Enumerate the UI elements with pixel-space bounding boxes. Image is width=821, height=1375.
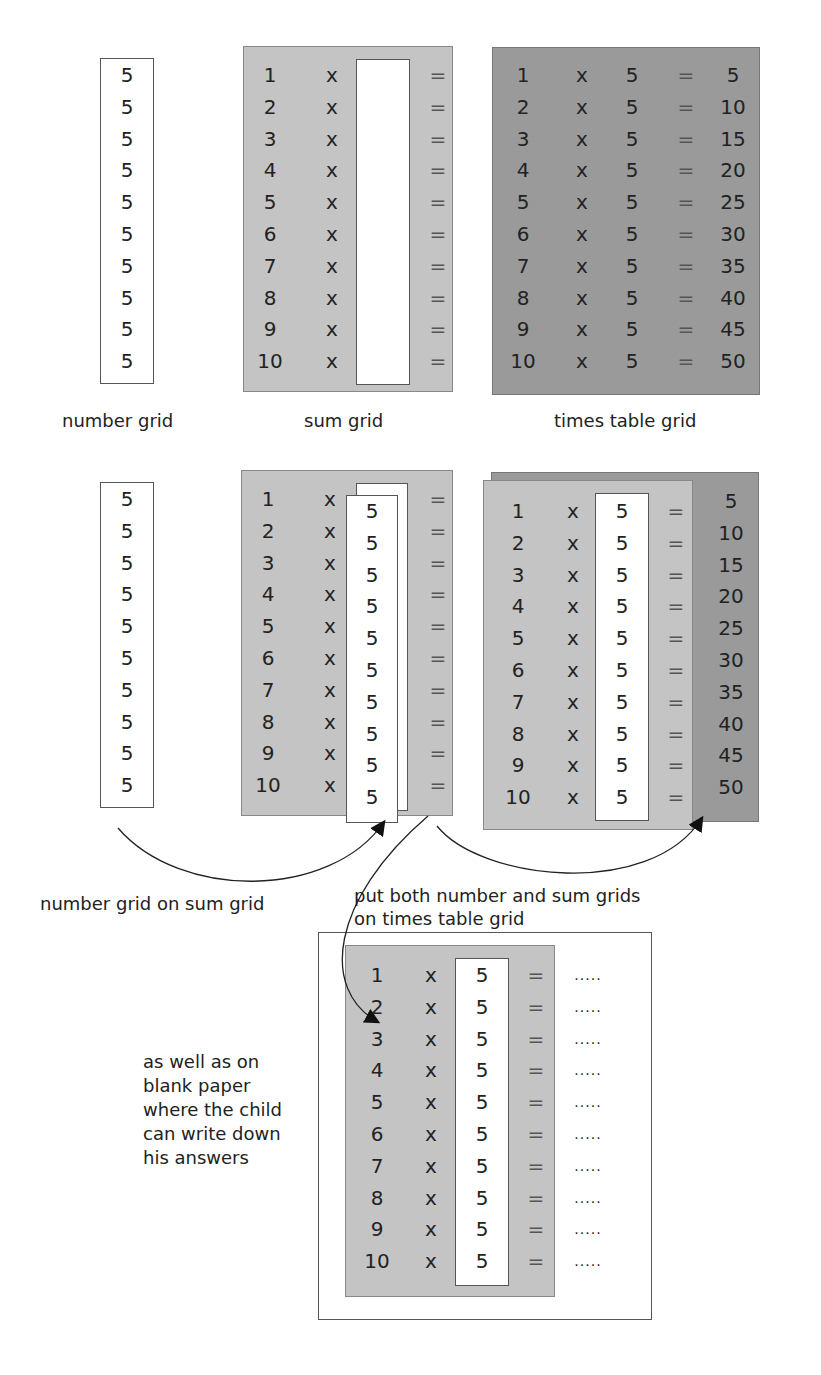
blank-answer: ..... (568, 1186, 608, 1210)
tt-multiplier: 5 (612, 95, 652, 119)
tt-multiplier: 5 (612, 158, 652, 182)
times-sign: x (312, 127, 352, 151)
number-grid-cell: 5 (107, 190, 147, 214)
tt-product: 45 (713, 317, 753, 341)
times-sign: x (312, 254, 352, 278)
arrow-sum-to-times (437, 818, 702, 873)
tt-row-n: 7 (503, 254, 543, 278)
tt-product: 5 (713, 63, 753, 87)
tt-row-n: 1 (503, 63, 543, 87)
times-sign: x (562, 317, 602, 341)
sum-row-n: 6 (250, 222, 290, 246)
number-grid-cell: 5 (107, 127, 147, 151)
number-grid-cell: 5 (107, 317, 147, 341)
sum-row-n: 8 (250, 286, 290, 310)
combo-product: 35 (711, 680, 751, 704)
sum-row-n: 5 (248, 614, 288, 638)
equals-sign: = (666, 317, 706, 341)
sum-row-n: 3 (248, 551, 288, 575)
combo-product: 5 (711, 489, 751, 513)
equals-sign: = (516, 1027, 556, 1051)
times-sign: x (312, 222, 352, 246)
combo-multiplier: 5 (602, 626, 642, 650)
combo-row-n: 7 (498, 690, 538, 714)
sum-row-n: 1 (250, 63, 290, 87)
combo-row-n: 4 (498, 594, 538, 618)
times-sign: x (312, 349, 352, 373)
number-grid-cell: 5 (107, 614, 147, 638)
equals-sign: = (666, 222, 706, 246)
tt-multiplier: 5 (612, 127, 652, 151)
tt-product: 30 (713, 222, 753, 246)
tt-row-n: 10 (503, 349, 543, 373)
times-sign: x (310, 741, 350, 765)
tt-multiplier: 5 (612, 222, 652, 246)
paper-row-n: 7 (357, 1154, 397, 1178)
blank-answer: ..... (568, 1058, 608, 1082)
equals-sign: = (418, 551, 458, 575)
times-sign: x (553, 753, 593, 777)
sum-row-n: 2 (248, 519, 288, 543)
equals-sign: = (516, 1122, 556, 1146)
equals-sign: = (656, 690, 696, 714)
times-sign: x (562, 190, 602, 214)
times-sign: x (310, 773, 350, 797)
combo-product: 50 (711, 775, 751, 799)
blank-answer: ..... (568, 1154, 608, 1178)
times-sign: x (411, 1217, 451, 1241)
times-sign: x (411, 1249, 451, 1273)
tt-multiplier: 5 (612, 63, 652, 87)
sum-row-n: 9 (250, 317, 290, 341)
equals-sign: = (418, 646, 458, 670)
equals-sign: = (656, 658, 696, 682)
blank-answer: ..... (568, 1217, 608, 1241)
times-sign: x (553, 690, 593, 714)
paper-multiplier: 5 (462, 1186, 502, 1210)
times-sign: x (312, 95, 352, 119)
times-sign: x (411, 995, 451, 1019)
combo-multiplier: 5 (602, 531, 642, 555)
tt-row-n: 2 (503, 95, 543, 119)
combo-row-n: 3 (498, 563, 538, 587)
equals-sign: = (516, 1090, 556, 1114)
times-sign: x (312, 286, 352, 310)
times-sign: x (562, 127, 602, 151)
equals-sign: = (666, 349, 706, 373)
tt-multiplier: 5 (612, 317, 652, 341)
times-sign: x (312, 63, 352, 87)
overlay-multiplier: 5 (352, 690, 392, 714)
overlay-multiplier: 5 (352, 531, 392, 555)
times-sign: x (553, 626, 593, 650)
times-sign: x (562, 63, 602, 87)
tt-multiplier: 5 (612, 286, 652, 310)
tt-product: 15 (713, 127, 753, 151)
times-sign: x (562, 286, 602, 310)
paper-multiplier: 5 (462, 963, 502, 987)
combo-multiplier: 5 (602, 753, 642, 777)
sum-row-n: 10 (248, 773, 288, 797)
number-grid-cell: 5 (107, 773, 147, 797)
overlay-multiplier: 5 (352, 626, 392, 650)
paper-row-n: 8 (357, 1186, 397, 1210)
times-sign: x (310, 551, 350, 575)
combo-row-n: 2 (498, 531, 538, 555)
equals-sign: = (418, 63, 458, 87)
combo-row-n: 9 (498, 753, 538, 777)
sum-row-n: 9 (248, 741, 288, 765)
arrow-to-paper (342, 816, 428, 1022)
equals-sign: = (666, 286, 706, 310)
combo-multiplier: 5 (602, 722, 642, 746)
equals-sign: = (516, 995, 556, 1019)
sum-row-n: 4 (250, 158, 290, 182)
times-sign: x (310, 678, 350, 702)
times-sign: x (310, 519, 350, 543)
overlay-multiplier: 5 (352, 499, 392, 523)
number-grid-cell: 5 (107, 254, 147, 278)
blank-answer: ..... (568, 1122, 608, 1146)
paper-multiplier: 5 (462, 1090, 502, 1114)
sum-row-n: 4 (248, 582, 288, 606)
sum-row-n: 7 (250, 254, 290, 278)
sum-row-n: 10 (250, 349, 290, 373)
equals-sign: = (418, 773, 458, 797)
times-sign: x (411, 1058, 451, 1082)
